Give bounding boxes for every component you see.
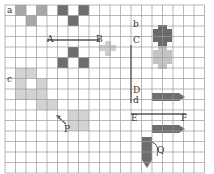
point-label-B: B [96, 35, 103, 44]
shaded-square [58, 58, 69, 69]
shape-c-cell [26, 68, 37, 79]
grid-canvas [0, 0, 214, 174]
shape-c-cell [37, 79, 48, 90]
shape-c-cell [79, 121, 90, 132]
shape-c-cell [47, 100, 58, 111]
shape-c-cell [16, 68, 27, 79]
shaded-square [79, 5, 90, 16]
shape-c-cell [26, 89, 37, 100]
shape-c-cell [68, 110, 79, 121]
point-label-b: b [133, 20, 139, 29]
point-label-P: P [64, 125, 70, 134]
point-label-Q: Q [157, 146, 164, 155]
shape-c-cell [79, 110, 90, 121]
point-label-c: c [7, 75, 12, 84]
shape-c-cell [16, 79, 27, 90]
point-label-E: E [131, 114, 138, 123]
shape-c-cell [37, 89, 48, 100]
shape-c-cell [37, 100, 48, 111]
point-label-F: F [181, 114, 187, 123]
point-label-d: d [133, 96, 139, 105]
shaded-square [58, 5, 69, 16]
grid-lines [5, 5, 205, 173]
point-label-A: A [47, 35, 54, 44]
grid-diagram: aABbCcDdEFPQ [0, 0, 214, 174]
shaded-square [26, 16, 37, 27]
arrow-shape-F [152, 125, 185, 133]
shaded-square [37, 5, 48, 16]
shaded-square [79, 58, 90, 69]
shaded-square [16, 5, 27, 16]
shaded-square [68, 47, 79, 58]
shaded-square [68, 16, 79, 27]
point-label-a: a [7, 6, 12, 15]
point-label-C: C [133, 36, 140, 45]
shape-c-cell [16, 89, 27, 100]
point-label-D: D [133, 86, 140, 95]
